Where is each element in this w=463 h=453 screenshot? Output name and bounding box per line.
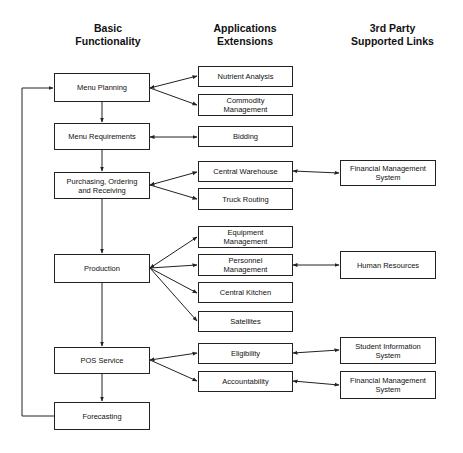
box-menu-planning: Menu Planning [54,73,150,102]
box-bidding: Bidding [198,126,293,147]
box-accountability: Accountability [198,371,293,392]
box-financial-management-system-1: Financial Management System [340,160,436,186]
box-satellites: Satellites [198,311,293,332]
box-eligibility: Eligibility [198,343,293,364]
box-personnel-management: Personnel Management [198,254,293,276]
box-commodity-management: Commodity Management [198,94,293,116]
box-human-resources: Human Resources [340,251,436,279]
box-central-warehouse: Central Warehouse [198,161,293,182]
box-purchasing-ordering-receiving: Purchasing, Ordering and Receiving [54,172,150,199]
box-equipment-management: Equipment Management [198,226,293,248]
box-forecasting: Forecasting [54,402,150,430]
box-menu-requirements: Menu Requirements [54,123,150,150]
box-financial-management-system-2: Financial Management System [340,371,436,399]
box-truck-routing: Truck Routing [198,188,293,210]
box-pos-service: POS Service [54,347,150,374]
box-central-kitchen: Central Kitchen [198,282,293,303]
box-production: Production [54,254,150,283]
box-nutrient-analysis: Nutrient Analysis [198,66,293,87]
box-student-information-system: Student Information System [340,337,436,364]
